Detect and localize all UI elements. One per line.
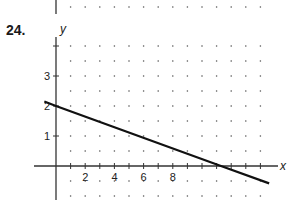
svg-text:4: 4	[111, 171, 117, 183]
coordinate-plane: 2468123 x y	[0, 0, 289, 200]
data-line	[44, 102, 269, 184]
svg-text:2: 2	[82, 171, 88, 183]
svg-text:6: 6	[141, 171, 147, 183]
y-axis-label: y	[59, 22, 67, 36]
svg-text:8: 8	[170, 171, 176, 183]
svg-text:3: 3	[44, 70, 50, 82]
svg-text:1: 1	[44, 130, 50, 142]
previous-dot-row	[70, 6, 261, 8]
x-axis-label: x	[279, 159, 287, 173]
axis-ticks	[53, 46, 260, 169]
